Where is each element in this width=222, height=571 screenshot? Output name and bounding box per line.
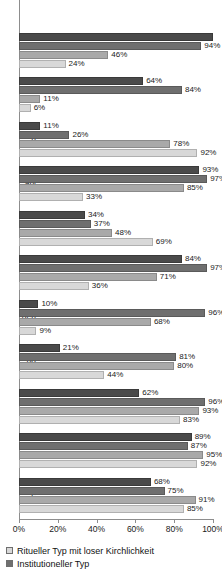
x-axis-tick-label: 100% [202,524,222,534]
bar [19,122,40,130]
bar-value-label: 92% [197,460,216,468]
bar-row: 87% [19,442,213,450]
bar-value-label: 83% [180,416,199,424]
bar-group: 84%97%71%36% [19,255,213,291]
bar-value-label: 80% [174,362,193,370]
bar-group: e68%75%91%85% [19,478,213,514]
bar [19,77,143,85]
bar [19,86,182,94]
bar-row: 92% [19,460,213,468]
bar-row: 6% [19,104,213,112]
bar [19,51,108,59]
bar [19,95,40,103]
bar [19,362,174,370]
bar [19,238,153,246]
bar-row: 68% [19,478,213,486]
bar-row: 33% [19,193,213,201]
x-axis-tick-label: 0% [13,524,25,534]
bar [19,33,213,41]
bar [19,166,199,174]
bar [19,309,205,317]
bar-row: 37% [19,220,213,228]
legend-item: Ritueller Typ mit loser Kirchlichkeit [6,544,222,557]
legend-swatch-ritueller-typ [6,547,13,554]
bar-row: 68% [19,318,213,326]
bar-row: 97% [19,264,213,272]
bar-value-label: 93% [199,166,218,174]
bar [19,496,196,504]
bar-row: 80% [19,362,213,370]
bar-row: 71% [19,273,213,281]
bar-value-label: 84% [182,255,201,263]
bar-value-label: 68% [151,318,170,326]
bar-value-label: 48% [112,229,131,237]
bar-group: ahl93%97%85%33% [19,166,213,202]
bar [19,211,85,219]
bar-group: h11%26%78%92% [19,122,213,158]
bar-value-label: 10% [38,300,57,308]
bar-row: 10% [19,300,213,308]
bar-row: 92% [19,149,213,157]
bar [19,451,203,459]
bar-row: 64% [19,77,213,85]
bar-value-label: 26% [69,131,88,139]
chart-legend: Ritueller Typ mit loser Kirchlichkeit In… [6,544,222,570]
bar-value-label: 84% [182,86,201,94]
bar-value-label: 92% [197,149,216,157]
bar-row: 24% [19,60,213,68]
bar-value-label: 81% [176,353,195,361]
bar [19,220,91,228]
bar-group: 89%87%95%92% [19,433,213,469]
bar-row: 89% [19,433,213,441]
x-axis-tick [97,519,98,523]
bar-value-label: 69% [153,238,172,246]
bar-value-label: 96% [205,309,222,317]
x-axis-tick [58,519,59,523]
x-axis-tick-label: 80% [166,524,183,534]
bar-row: 93% [19,407,213,415]
bar [19,353,176,361]
bar-row: 94% [19,42,213,50]
bar [19,389,139,397]
bar-row: 11% [19,95,213,103]
bar-row: 46% [19,51,213,59]
x-axis-tick-label: 20% [49,524,66,534]
bar-value-label: 96% [205,398,222,406]
bar [19,149,197,157]
bar-row: 78% [19,140,213,148]
bar-value-label: 34% [85,211,104,219]
bar [19,273,157,281]
bar [19,371,104,379]
bar-value-label: 24% [66,60,85,68]
bar [19,60,66,68]
bar-group: 62%96%93%83% [19,389,213,425]
bar-value-label: 78% [170,140,189,148]
bar-row: 97% [19,175,213,183]
horizontal-bar-chart: 94%46%24%64%84%11%6%h11%26%78%92%ahl93%9… [0,0,222,571]
bar-row: 96% [19,309,213,317]
bar [19,505,184,513]
bar-value-label: 64% [143,77,162,85]
bar-value-label: 62% [139,389,158,397]
bar-value-label: 36% [89,282,108,290]
bar-group: 64%84%11%6% [19,77,213,113]
bar-row: 75% [19,487,213,495]
bar-value-label: 68% [151,478,170,486]
bar-value-label: 87% [188,442,207,450]
bar-value-label: 9% [36,327,51,335]
bar [19,264,207,272]
x-axis-tick [19,519,20,523]
bar [19,442,188,450]
bar [19,460,197,468]
bar-row: 91% [19,496,213,504]
bar-value-label: 89% [192,433,211,441]
legend-swatch-institutioneller-typ [6,560,13,567]
bar-row [19,33,213,41]
bar-group: oen10%96%68%9% [19,300,213,336]
bar-row: 93% [19,166,213,174]
bar-group: nd21%81%80%44% [19,344,213,380]
x-axis-tick-label: 60% [127,524,144,534]
bar-value-label: 91% [196,496,215,504]
bar [19,433,192,441]
bar-value-label: 97% [207,175,222,183]
